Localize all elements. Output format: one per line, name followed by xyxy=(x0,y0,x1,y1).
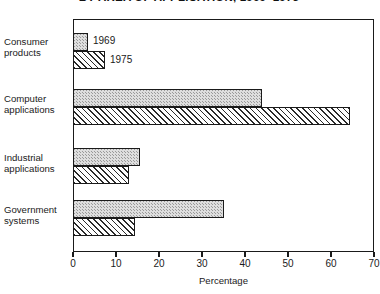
category-label-industrial-applications: Industrial applications xyxy=(4,152,70,175)
x-tick-label-50: 50 xyxy=(282,258,293,269)
bar-computer-applications-1975 xyxy=(73,107,350,125)
legend-label-1975: 1975 xyxy=(110,54,132,66)
bar-computer-applications-1969 xyxy=(73,89,262,107)
x-tick-60 xyxy=(330,252,331,257)
bar-government-systems-1975 xyxy=(73,218,135,236)
x-tick-label-10: 10 xyxy=(110,258,121,269)
category-label-line1: Industrial applications xyxy=(4,152,55,174)
category-label-government-systems: Government systems xyxy=(4,204,70,227)
bar-industrial-applications-1969 xyxy=(73,148,140,166)
category-label-line1: Government systems xyxy=(4,204,57,226)
legend-label-1969: 1969 xyxy=(93,35,115,47)
x-tick-70 xyxy=(373,252,374,257)
category-label-line1: Computer applications xyxy=(4,93,55,115)
x-tick-label-60: 60 xyxy=(325,258,336,269)
x-tick-label-30: 30 xyxy=(196,258,207,269)
bar-industrial-applications-1975 xyxy=(73,166,129,184)
x-axis-title: Percentage xyxy=(73,275,374,286)
chart-title: BY AREA OF APPLICATION, 1969–1975 xyxy=(0,0,378,3)
x-tick-10 xyxy=(115,252,116,257)
x-tick-40 xyxy=(244,252,245,257)
bar-consumer-products-1975 xyxy=(73,51,105,69)
bar-government-systems-1969 xyxy=(73,200,224,218)
x-tick-0 xyxy=(72,252,73,257)
x-tick-label-20: 20 xyxy=(153,258,164,269)
category-label-consumer-products: Consumer products xyxy=(4,36,70,59)
category-label-computer-applications: Computer applications xyxy=(4,93,70,116)
x-tick-label-0: 0 xyxy=(70,258,76,269)
category-label-line1: Consumer products xyxy=(4,36,48,58)
x-tick-20 xyxy=(158,252,159,257)
x-tick-30 xyxy=(201,252,202,257)
x-tick-50 xyxy=(287,252,288,257)
x-tick-label-40: 40 xyxy=(239,258,250,269)
bar-consumer-products-1969 xyxy=(73,33,88,51)
x-tick-label-70: 70 xyxy=(368,258,379,269)
